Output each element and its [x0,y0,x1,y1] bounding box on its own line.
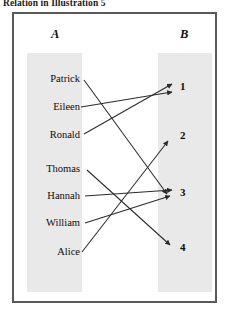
set-b-items: 1 2 3 4 [0,0,231,317]
set-b-item-4: 4 [180,241,186,253]
set-b-item-1: 1 [180,80,186,92]
set-b-item-3: 3 [180,186,186,198]
set-b-item-2: 2 [180,129,186,141]
